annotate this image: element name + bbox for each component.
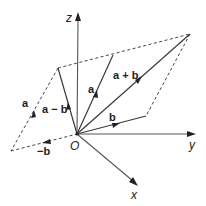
neg-b-arrow-icon bbox=[42, 139, 51, 144]
y-axis-label: y bbox=[188, 138, 196, 152]
z-axis-label: z bbox=[65, 11, 72, 25]
origin-label: O bbox=[70, 139, 79, 153]
x-axis bbox=[77, 134, 133, 181]
origin-point bbox=[75, 132, 78, 135]
z-axis bbox=[77, 20, 78, 134]
vector-a-minus-b bbox=[58, 68, 77, 134]
dashed-edge-right bbox=[146, 34, 190, 116]
vector-a-plus-b-label: a + b bbox=[113, 69, 139, 81]
y-axis-arrow-icon bbox=[187, 131, 196, 137]
vector-diagram: z y x O a b a + b a − b −b a bbox=[0, 0, 206, 206]
x-axis-label: x bbox=[130, 188, 138, 202]
vector-b-arrow-icon bbox=[112, 123, 120, 128]
vector-neg-b-label: −b bbox=[37, 145, 50, 157]
vector-b-label: b bbox=[109, 111, 116, 123]
z-axis-arrow-icon bbox=[75, 12, 81, 21]
vector-a-dashed-label: a bbox=[22, 97, 29, 109]
vector-a-minus-b-label: a − b bbox=[42, 103, 68, 115]
vector-a-label: a bbox=[88, 83, 95, 95]
labels: z y x O a b a + b a − b −b a bbox=[22, 11, 196, 202]
